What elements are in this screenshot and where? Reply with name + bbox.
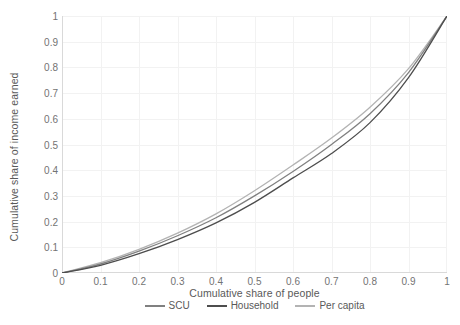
x-tick-label: 0.9 — [394, 276, 424, 287]
legend-line-swatch — [207, 305, 227, 307]
x-tick-label: 0.1 — [86, 276, 116, 287]
x-tick-label: 0.6 — [278, 276, 308, 287]
y-tick-label: 0.5 — [32, 139, 58, 150]
legend-label: SCU — [169, 300, 190, 311]
series-line-scu — [62, 16, 447, 273]
legend-line-swatch — [145, 305, 165, 307]
lorenz-curve-chart: Cumulative share of income earned 00.10.… — [0, 0, 460, 325]
plot-area — [62, 16, 447, 273]
y-axis-tick-labels: 00.10.20.30.40.50.60.70.80.91 — [28, 16, 58, 273]
legend-item-per-capita[interactable]: Per capita — [295, 300, 364, 311]
legend-item-scu[interactable]: SCU — [145, 300, 190, 311]
x-axis-title: Cumulative share of people — [62, 287, 447, 299]
y-tick-label: 0.3 — [32, 190, 58, 201]
x-tick-label: 0.4 — [201, 276, 231, 287]
series-curves — [62, 16, 447, 273]
x-tick-label: 0 — [47, 276, 77, 287]
y-tick-label: 0.8 — [32, 62, 58, 73]
y-tick-label: 0.9 — [32, 36, 58, 47]
x-tick-label: 0.8 — [355, 276, 385, 287]
legend-item-household[interactable]: Household — [207, 300, 279, 311]
chart-legend: SCUHouseholdPer capita — [62, 300, 447, 311]
legend-label: Per capita — [319, 300, 364, 311]
x-tick-label: 0.3 — [163, 276, 193, 287]
y-tick-label: 0.1 — [32, 242, 58, 253]
y-tick-label: 0.7 — [32, 88, 58, 99]
y-tick-label: 0.2 — [32, 216, 58, 227]
legend-line-swatch — [295, 305, 315, 307]
series-line-per-capita — [62, 16, 447, 273]
x-tick-label: 1 — [432, 276, 460, 287]
legend-label: Household — [231, 300, 279, 311]
x-tick-label: 0.5 — [240, 276, 270, 287]
y-tick-label: 1 — [32, 11, 58, 22]
x-tick-label: 0.2 — [124, 276, 154, 287]
y-tick-label: 0.6 — [32, 113, 58, 124]
series-line-household — [62, 16, 447, 273]
y-axis-title: Cumulative share of income earned — [3, 12, 25, 302]
x-tick-label: 0.7 — [317, 276, 347, 287]
y-tick-label: 0.4 — [32, 165, 58, 176]
